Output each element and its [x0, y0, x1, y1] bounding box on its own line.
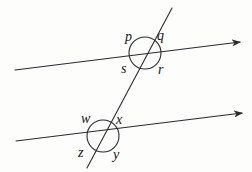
angle-label-y: y — [113, 148, 119, 162]
angle-label-r: r — [158, 63, 163, 77]
geometry-diagram-canvas: p q s r w x z y — [0, 0, 252, 172]
lower-parallel-line — [16, 113, 242, 141]
angle-label-s: s — [121, 62, 126, 76]
angle-label-p: p — [125, 30, 132, 44]
upper-parallel-line — [15, 42, 240, 70]
angle-label-x: x — [116, 113, 122, 127]
angle-label-q: q — [157, 29, 164, 43]
angle-label-z: z — [78, 146, 83, 160]
diagram-svg — [0, 0, 252, 172]
angle-label-w: w — [81, 112, 90, 126]
